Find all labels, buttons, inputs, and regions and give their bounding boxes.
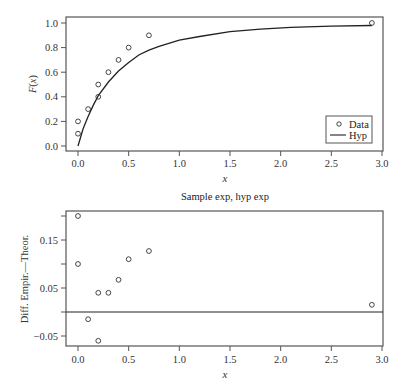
residual-plot: Sample exp, hyp exp−0.050.050.150.00.51.… xyxy=(19,191,389,380)
data-point xyxy=(96,82,101,87)
x-tick-label: 3.0 xyxy=(375,354,388,365)
residual-point xyxy=(116,277,121,282)
x-tick-label: 1.5 xyxy=(223,158,236,169)
residual-point xyxy=(126,257,131,262)
x-tick-label: 2.5 xyxy=(325,158,338,169)
y-tick-label: 1.0 xyxy=(45,18,58,29)
residual-point xyxy=(76,214,81,219)
x-tick-label: 2.5 xyxy=(325,354,338,365)
residual-point xyxy=(86,317,91,322)
x-tick-label: 0.5 xyxy=(122,158,135,169)
residual-point xyxy=(96,290,101,295)
cdf-plot: 0.00.20.40.60.81.00.00.51.01.52.02.53.0x… xyxy=(27,17,389,184)
residual-point xyxy=(369,302,374,307)
data-point xyxy=(86,107,91,112)
residual-point xyxy=(76,262,81,267)
data-point xyxy=(76,131,81,136)
data-point xyxy=(106,70,111,75)
y-tick-label: 0.6 xyxy=(45,67,58,78)
x-tick-label: 0.0 xyxy=(71,158,84,169)
chart-title: Sample exp, hyp exp xyxy=(181,191,269,202)
y-axis-label: Diff. Empir.—Theor. xyxy=(19,235,30,323)
chart-figure: 0.00.20.40.60.81.00.00.51.01.52.02.53.0x… xyxy=(0,0,403,392)
x-tick-label: 1.5 xyxy=(223,354,236,365)
x-tick-label: 1.0 xyxy=(173,158,186,169)
data-point xyxy=(116,58,121,63)
residual-point xyxy=(106,290,111,295)
y-tick-label: −0.05 xyxy=(34,331,58,342)
y-tick-label: 0.05 xyxy=(40,283,58,294)
y-axis-label: F(x) xyxy=(27,74,39,94)
x-tick-label: 2.0 xyxy=(274,158,287,169)
legend: DataHyp xyxy=(326,116,372,143)
y-tick-label: 0.4 xyxy=(45,91,59,102)
x-axis-label: x xyxy=(222,172,228,184)
data-point xyxy=(369,21,374,26)
legend-data-label: Data xyxy=(349,119,369,130)
x-axis-label: x xyxy=(222,368,228,380)
x-tick-label: 3.0 xyxy=(375,158,388,169)
x-tick-label: 1.0 xyxy=(173,354,186,365)
residual-point xyxy=(96,338,101,343)
y-tick-label: 0.15 xyxy=(40,235,58,246)
data-point xyxy=(147,33,152,38)
residual-point xyxy=(147,249,152,254)
x-tick-label: 0.5 xyxy=(122,354,135,365)
legend-hyp-label: Hyp xyxy=(349,130,367,141)
x-tick-label: 2.0 xyxy=(274,354,287,365)
data-point xyxy=(76,119,81,124)
y-tick-label: 0.0 xyxy=(45,141,58,152)
y-tick-label: 0.2 xyxy=(45,116,58,127)
plot-frame xyxy=(66,211,383,346)
x-tick-label: 0.0 xyxy=(71,354,84,365)
y-tick-label: 0.8 xyxy=(45,42,58,53)
data-point xyxy=(126,45,131,50)
